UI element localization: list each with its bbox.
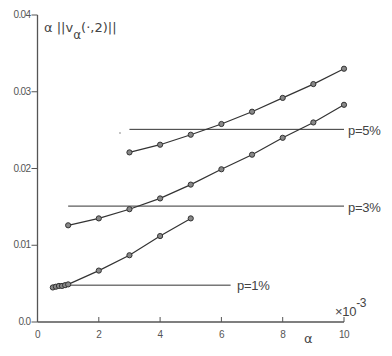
data-point-marker bbox=[127, 253, 132, 258]
y-axis-title: α ||vα(·,2)|| bbox=[44, 20, 117, 42]
y-tick-label: 0.04 bbox=[13, 9, 31, 20]
data-point-marker bbox=[311, 81, 316, 86]
x-tick-label: 8 bbox=[280, 329, 286, 340]
series-line bbox=[129, 69, 344, 153]
x-tick-label: 4 bbox=[158, 329, 164, 340]
x-axis-title: α bbox=[304, 331, 313, 346]
annotation-p3: p=3% bbox=[348, 200, 381, 215]
y-tick-label: 0.01 bbox=[13, 239, 31, 250]
x-tick-label: 6 bbox=[219, 329, 225, 340]
data-point-marker bbox=[96, 268, 101, 273]
data-point-marker bbox=[188, 182, 193, 187]
annotation-p5: p=5% bbox=[348, 123, 381, 138]
data-point-marker bbox=[341, 66, 346, 71]
y-tick-label: 0.0 bbox=[18, 316, 31, 327]
data-point-marker bbox=[158, 233, 163, 238]
reference-lines bbox=[53, 129, 344, 285]
x-tick-label: 10 bbox=[339, 329, 350, 340]
chart: 02468100.00.010.020.030.04 α ||vα(·,2)||… bbox=[0, 0, 392, 356]
speck bbox=[119, 132, 121, 134]
annotation-p1: p=1% bbox=[237, 278, 270, 293]
data-point-marker bbox=[249, 152, 254, 157]
x-tick-label: 2 bbox=[96, 329, 102, 340]
data-point-marker bbox=[219, 121, 224, 126]
data-point-marker bbox=[127, 150, 132, 155]
axes: 02468100.00.010.020.030.04 bbox=[13, 9, 350, 340]
data-series bbox=[50, 66, 346, 290]
data-point-marker bbox=[158, 196, 163, 201]
data-point-marker bbox=[96, 216, 101, 221]
y-tick-label: 0.02 bbox=[13, 163, 31, 174]
data-point-marker bbox=[66, 282, 71, 287]
data-point-marker bbox=[219, 167, 224, 172]
series-p1 bbox=[50, 216, 193, 290]
data-point-marker bbox=[311, 120, 316, 125]
data-point-marker bbox=[188, 132, 193, 137]
data-point-marker bbox=[341, 102, 346, 107]
series-line bbox=[53, 218, 191, 287]
x-multiplier: ×10-3 bbox=[335, 296, 367, 319]
series-line bbox=[68, 105, 344, 226]
data-point-marker bbox=[280, 95, 285, 100]
data-point-marker bbox=[188, 216, 193, 221]
data-point-marker bbox=[127, 207, 132, 212]
data-point-marker bbox=[249, 109, 254, 114]
series-p5 bbox=[127, 66, 347, 155]
y-tick-label: 0.03 bbox=[13, 86, 31, 97]
data-point-marker bbox=[158, 142, 163, 147]
data-point-marker bbox=[66, 223, 71, 228]
series-p3 bbox=[66, 102, 347, 228]
data-point-marker bbox=[280, 135, 285, 140]
x-tick-label: 0 bbox=[35, 329, 41, 340]
